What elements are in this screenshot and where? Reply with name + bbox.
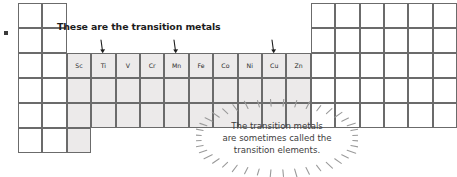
grid-cell-transition: [91, 78, 115, 103]
grid-cell-ti: Ti: [91, 53, 115, 78]
grid-cell-left: [42, 78, 66, 103]
grid-cell-right: [384, 78, 408, 103]
grid-cell-transition: [116, 78, 140, 103]
grid-cell-transition: [164, 78, 188, 103]
callout-text: The transition metals are sometimes call…: [196, 99, 358, 177]
grid-cell-right: [433, 78, 457, 103]
grid-cell-left: [18, 103, 42, 128]
element-symbol: Cu: [263, 62, 285, 68]
grid-cell-cr: Cr: [140, 53, 164, 78]
grid-cell-transition: [140, 78, 164, 103]
grid-cell-left: [42, 128, 66, 153]
grid-cell-right: [433, 3, 457, 28]
element-symbol: Cr: [141, 62, 163, 68]
grid-cell-left: [18, 53, 42, 78]
grid-cell-fe: Fe: [189, 53, 213, 78]
grid-cell-left: [42, 103, 66, 128]
element-symbol: Fe: [190, 62, 212, 68]
element-symbol: Co: [214, 62, 236, 68]
grid-cell-transition: [91, 103, 115, 128]
callout-line-1: The transition metals: [231, 120, 323, 132]
grid-cell-transition: [67, 78, 91, 103]
arrow-to-cu: [266, 39, 280, 55]
grid-cell-left: [18, 3, 42, 28]
grid-cell-transition: [116, 103, 140, 128]
grid-cell-transition: [140, 103, 164, 128]
grid-cell-right: [384, 53, 408, 78]
grid-cell-right: [311, 53, 335, 78]
grid-cell-right: [384, 28, 408, 53]
grid-cell-right: [408, 53, 432, 78]
arrow-to-mn: [168, 39, 182, 55]
grid-cell-right: [360, 103, 384, 128]
grid-cell-right: [335, 28, 359, 53]
grid-cell-ni: Ni: [238, 53, 262, 78]
grid-cell-zn: Zn: [286, 53, 310, 78]
grid-cell-v: V: [116, 53, 140, 78]
element-symbol: Sc: [68, 62, 90, 68]
element-symbol: Ni: [239, 62, 261, 68]
element-symbol: Ti: [92, 62, 114, 68]
grid-cell-right: [433, 28, 457, 53]
grid-cell-right: [408, 28, 432, 53]
element-symbol: V: [117, 62, 139, 68]
grid-cell-transition: [67, 103, 91, 128]
grid-cell-right: [335, 53, 359, 78]
element-symbol: Mn: [165, 62, 187, 68]
grid-cell-left: [18, 78, 42, 103]
grid-cell-right: [311, 3, 335, 28]
grid-cell-right: [408, 78, 432, 103]
arrow-to-ti: [95, 39, 109, 55]
grid-cell-transition: [67, 128, 91, 153]
grid-cell-mn: Mn: [164, 53, 188, 78]
grid-cell-right: [360, 3, 384, 28]
grid-cell-right: [335, 3, 359, 28]
grid-cell-right: [360, 28, 384, 53]
grid-cell-co: Co: [213, 53, 237, 78]
grid-cell-right: [360, 78, 384, 103]
grid-cell-right: [384, 103, 408, 128]
grid-cell-right: [433, 103, 457, 128]
grid-cell-right: [311, 28, 335, 53]
bullet-marker: [4, 31, 8, 35]
grid-cell-right: [408, 103, 432, 128]
starburst-callout: The transition metals are sometimes call…: [196, 99, 358, 177]
grid-cell-transition: [164, 103, 188, 128]
callout-line-2: are sometimes called the: [223, 132, 332, 144]
grid-cell-left: [42, 53, 66, 78]
grid-cell-cu: Cu: [262, 53, 286, 78]
grid-cell-left: [18, 28, 42, 53]
grid-cell-right: [384, 3, 408, 28]
heading-label: These are the transition metals: [57, 21, 221, 32]
grid-cell-right: [360, 53, 384, 78]
callout-line-3: transition elements.: [234, 144, 320, 156]
grid-cell-sc: Sc: [67, 53, 91, 78]
grid-cell-right: [433, 53, 457, 78]
element-symbol: Zn: [287, 62, 309, 68]
grid-cell-left: [18, 128, 42, 153]
grid-cell-right: [408, 3, 432, 28]
